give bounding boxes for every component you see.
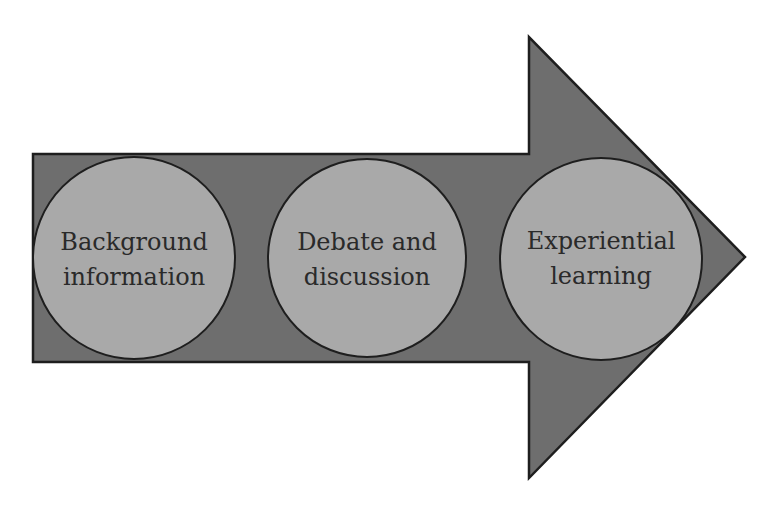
step-label-line1: Background bbox=[60, 228, 208, 256]
step-1: Background information bbox=[33, 157, 235, 359]
process-diagram: Background information Debate and discus… bbox=[0, 0, 783, 515]
step-label-line2: information bbox=[63, 263, 205, 291]
step-circle bbox=[33, 157, 235, 359]
step-circle bbox=[268, 159, 466, 357]
step-3: Experiential learning bbox=[500, 158, 702, 360]
step-label-line1: Experiential bbox=[527, 227, 676, 255]
step-label-line2: discussion bbox=[304, 263, 430, 291]
step-2: Debate and discussion bbox=[268, 159, 466, 357]
step-label-line1: Debate and bbox=[297, 228, 437, 256]
step-circle bbox=[500, 158, 702, 360]
step-label-line2: learning bbox=[550, 262, 652, 290]
